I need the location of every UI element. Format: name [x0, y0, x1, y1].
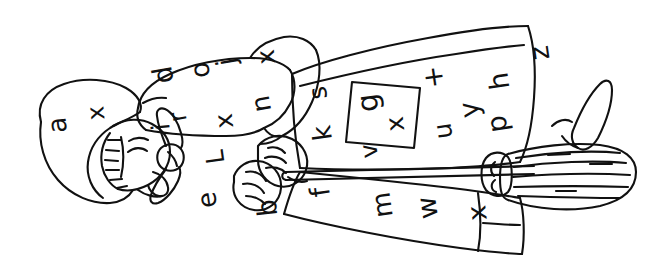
handwritten-letter: x — [382, 115, 408, 132]
handwritten-letter: b — [253, 198, 282, 218]
hair-hatch-2 — [106, 150, 119, 151]
handwritten-letter: x — [463, 204, 490, 222]
broom-bristle-6 — [548, 154, 570, 155]
hair-hatch-5 — [110, 179, 122, 180]
handwritten-letter: x — [211, 112, 237, 129]
handwritten-letter: x — [83, 105, 108, 121]
broom-bristle-4 — [514, 186, 628, 187]
handwritten-letter: w — [412, 195, 442, 221]
drawing-canvas: axdojxirxnLebskgxvf+yuhpzmwx Line drawin… — [0, 0, 654, 275]
handwritten-letter: x — [253, 48, 279, 65]
handwritten-letter: + — [418, 64, 448, 90]
handwritten-letter: a — [43, 116, 70, 134]
handwritten-letter: m — [367, 191, 396, 220]
hair-hatch-3 — [105, 160, 118, 161]
